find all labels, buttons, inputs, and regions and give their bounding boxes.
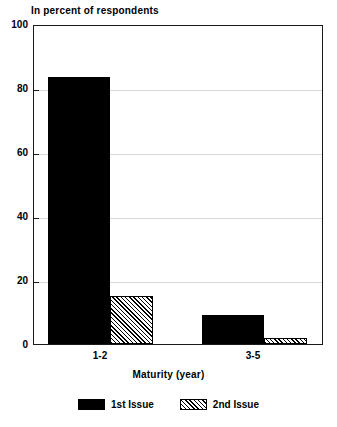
- y-tick-label-100: 100: [0, 20, 28, 30]
- x-category-label-3-5: 3-5: [223, 350, 283, 361]
- chart-legend: 1st Issue 2nd Issue: [0, 399, 337, 410]
- legend-label-1st-issue: 1st Issue: [111, 399, 154, 410]
- bar-3-5-2nd-issue: [264, 338, 307, 344]
- y-tick-label-0: 0: [0, 340, 28, 350]
- y-tick-label-60: 60: [0, 148, 28, 158]
- y-tick-label-80: 80: [0, 84, 28, 94]
- legend-item-2nd-issue: 2nd Issue: [180, 399, 259, 410]
- chart-title: In percent of respondents: [31, 5, 159, 16]
- legend-label-2nd-issue: 2nd Issue: [213, 399, 259, 410]
- y-tick-mark-40: [34, 218, 39, 219]
- y-tick-label-20: 20: [0, 276, 28, 286]
- legend-swatch-hatched-icon: [180, 399, 207, 410]
- bar-1-2-2nd-issue: [110, 296, 153, 344]
- y-tick-mark-20: [34, 282, 39, 283]
- bar-3-5-1st-issue: [202, 315, 264, 344]
- bar-1-2-1st-issue: [48, 77, 110, 344]
- y-tick-mark-60: [34, 154, 39, 155]
- legend-swatch-solid-icon: [78, 399, 105, 410]
- plot-area: [33, 25, 323, 345]
- y-tick-mark-80: [34, 90, 39, 91]
- legend-item-1st-issue: 1st Issue: [78, 399, 154, 410]
- x-axis-title: Maturity (year): [0, 369, 337, 380]
- x-category-label-1-2: 1-2: [70, 350, 130, 361]
- y-tick-label-40: 40: [0, 212, 28, 222]
